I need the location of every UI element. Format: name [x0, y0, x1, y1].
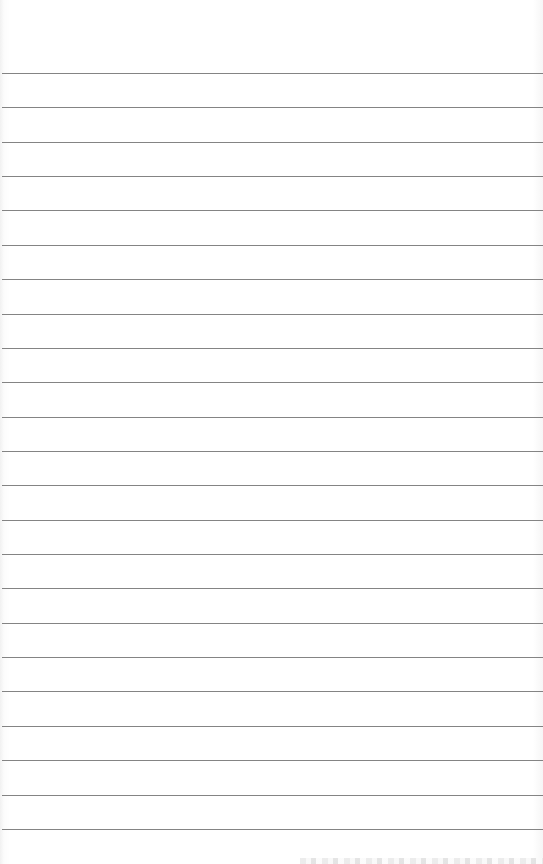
ruled-line: [2, 73, 543, 74]
ruled-line: [2, 279, 543, 280]
ruled-line: [2, 176, 543, 177]
lined-paper-sheet: [0, 0, 543, 864]
ruled-line: [2, 657, 543, 658]
ruled-line: [2, 795, 543, 796]
ruled-line: [2, 417, 543, 418]
ruled-line: [2, 829, 543, 830]
ruled-line: [2, 245, 543, 246]
ruled-line: [2, 382, 543, 383]
ruled-line: [2, 623, 543, 624]
ruled-line: [2, 760, 543, 761]
ruled-line: [2, 726, 543, 727]
ruled-line: [2, 451, 543, 452]
ruled-line: [2, 107, 543, 108]
ruled-line: [2, 554, 543, 555]
ruled-line: [2, 210, 543, 211]
scan-edge-noise: [300, 858, 543, 864]
ruled-line: [2, 520, 543, 521]
ruled-line: [2, 485, 543, 486]
ruled-line: [2, 142, 543, 143]
ruled-line: [2, 348, 543, 349]
ruled-line: [2, 588, 543, 589]
ruled-line: [2, 691, 543, 692]
ruled-line: [2, 314, 543, 315]
